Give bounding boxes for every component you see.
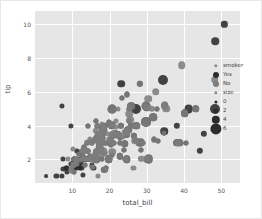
legend-title-marker-icon xyxy=(214,64,217,67)
y-tick-label: 10 xyxy=(19,21,31,28)
legend-entry[interactable]: Yes xyxy=(206,70,261,79)
data-point xyxy=(136,138,145,147)
data-point xyxy=(221,21,227,27)
data-point xyxy=(138,147,143,152)
gridline-vertical xyxy=(184,11,185,183)
gridline-horizontal xyxy=(35,24,240,25)
data-point xyxy=(123,131,129,137)
legend-title-marker-icon xyxy=(214,91,217,94)
legend-marker-icon xyxy=(213,108,218,113)
data-point xyxy=(59,104,64,109)
data-point xyxy=(162,131,167,136)
data-point xyxy=(72,169,77,174)
legend-entry[interactable]: 2 xyxy=(206,106,261,115)
data-point xyxy=(59,174,64,179)
legend-title-text: smoker xyxy=(223,61,243,70)
data-point xyxy=(152,88,160,96)
data-point xyxy=(86,123,91,128)
y-tick-label: 8 xyxy=(19,55,31,62)
y-tick-label: 4 xyxy=(19,122,31,129)
legend-title-text: size xyxy=(223,88,234,97)
data-point xyxy=(118,123,124,129)
data-point xyxy=(142,102,151,111)
data-point xyxy=(54,174,59,179)
data-point xyxy=(121,140,129,148)
x-tick-label: 50 xyxy=(218,187,226,194)
data-point xyxy=(149,113,157,121)
gridline-horizontal xyxy=(35,58,240,59)
data-point xyxy=(178,62,186,70)
data-point xyxy=(108,104,117,113)
legend-marker-icon xyxy=(214,100,217,103)
data-point xyxy=(161,102,169,110)
data-point xyxy=(45,174,49,178)
scatter-plot-figure: 1020304050 246810 total_bill tip smokerY… xyxy=(0,0,262,219)
data-point xyxy=(82,162,87,167)
data-point xyxy=(128,102,136,110)
data-point xyxy=(108,122,116,130)
data-point xyxy=(122,148,127,153)
data-point xyxy=(154,106,159,111)
y-tick-label: 6 xyxy=(19,88,31,95)
legend-marker-icon xyxy=(213,72,219,78)
legend-entry-label: 4 xyxy=(223,115,227,124)
legend-group-title: size xyxy=(206,88,261,97)
data-point xyxy=(81,172,86,177)
data-point xyxy=(192,105,200,113)
x-tick-label: 10 xyxy=(68,187,76,194)
data-point xyxy=(125,92,130,97)
data-point xyxy=(101,167,107,173)
x-tick-label: 20 xyxy=(106,187,114,194)
legend-entry-label: Yes xyxy=(223,70,232,79)
data-point xyxy=(211,38,219,46)
y-axis-label: tip xyxy=(4,84,12,93)
data-point xyxy=(119,95,124,100)
data-point xyxy=(181,110,189,118)
data-point xyxy=(131,165,136,170)
y-tick-label: 2 xyxy=(19,156,31,163)
legend-marker-icon xyxy=(210,123,221,134)
legend-entry[interactable]: No xyxy=(206,79,261,88)
legend-entry[interactable]: 6 xyxy=(206,124,261,133)
data-point xyxy=(118,80,126,88)
data-point xyxy=(158,75,168,85)
legend-group-title: smoker xyxy=(206,61,261,70)
legend-entry-label: No xyxy=(223,79,230,88)
legend-entry-label: 6 xyxy=(223,124,227,133)
legend-entry-label: 0 xyxy=(223,97,227,106)
data-point xyxy=(197,148,203,154)
data-point xyxy=(137,80,143,86)
data-point xyxy=(99,157,104,162)
data-point xyxy=(96,174,101,179)
data-point xyxy=(110,153,115,158)
x-axis-label: total_bill xyxy=(35,199,240,207)
legend-entry[interactable]: 0 xyxy=(206,97,261,106)
data-point xyxy=(174,123,180,129)
legend-marker-icon xyxy=(213,81,219,87)
legend: smokerYesNosize0246 xyxy=(206,61,261,133)
data-point xyxy=(176,139,184,147)
x-tick-label: 30 xyxy=(143,187,151,194)
legend-entry-label: 2 xyxy=(223,106,227,115)
data-point xyxy=(184,140,189,145)
x-tick-label: 40 xyxy=(180,187,188,194)
data-point xyxy=(155,138,160,143)
